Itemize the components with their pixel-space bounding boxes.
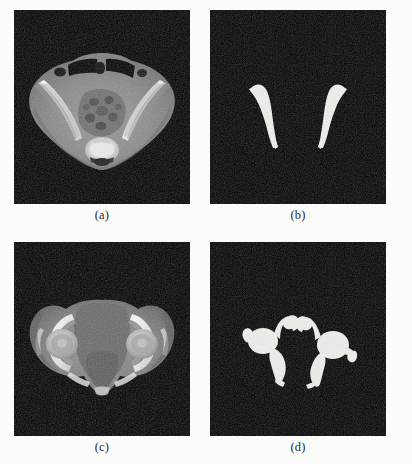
- panel-c-caption: (c): [14, 440, 190, 455]
- panel-c: (c): [14, 242, 190, 436]
- panel-b: (b): [210, 10, 386, 204]
- panel-c-image: [14, 242, 190, 436]
- panel-d: (d): [210, 242, 386, 436]
- panel-d-image: [210, 242, 386, 436]
- panel-b-caption: (b): [210, 208, 386, 223]
- ct-slice-pelvis-lower: [14, 242, 190, 436]
- segmentation-mask-iliac-bones: [210, 10, 386, 204]
- panel-a-caption: (a): [14, 208, 190, 223]
- panel-b-image: [210, 10, 386, 204]
- panel-a-image: [14, 10, 190, 204]
- panel-a: (a): [14, 10, 190, 204]
- panel-d-caption: (d): [210, 440, 386, 455]
- ct-slice-pelvis-upper: [14, 10, 190, 204]
- figure-panel-grid: (a): [0, 0, 412, 464]
- segmentation-mask-femoral-heads: [210, 242, 386, 436]
